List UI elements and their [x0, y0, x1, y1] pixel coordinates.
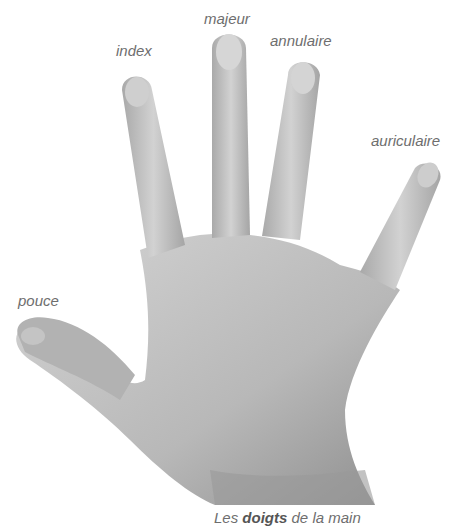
label-ring: annulaire	[270, 32, 332, 49]
middle-nail	[216, 34, 242, 70]
caption-suffix: de la main	[287, 509, 360, 526]
caption-prefix: Les	[214, 509, 242, 526]
caption-emphasis: doigts	[242, 509, 287, 526]
index-nail	[125, 77, 149, 107]
label-index: index	[116, 42, 152, 59]
figure-caption: Les doigts de la main	[214, 509, 361, 526]
label-middle: majeur	[204, 10, 250, 27]
thumb-nail	[21, 327, 45, 345]
label-thumb: pouce	[18, 292, 59, 309]
label-little: auriculaire	[371, 132, 440, 149]
ring-nail	[291, 62, 315, 94]
